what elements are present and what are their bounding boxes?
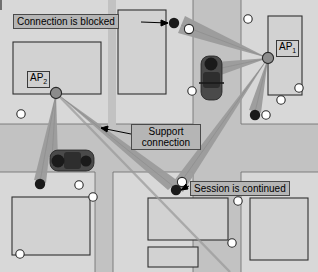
building-bottom-middle-small bbox=[148, 247, 198, 267]
tree bbox=[89, 193, 97, 201]
label-support-connection: Support connection bbox=[131, 124, 201, 150]
label-ap2-sub: 2 bbox=[43, 78, 47, 85]
ap2-south-user-node bbox=[35, 179, 45, 189]
ap1-south-user-node bbox=[250, 110, 260, 120]
handover-user-node bbox=[171, 185, 181, 195]
tree bbox=[16, 250, 24, 258]
tree bbox=[188, 87, 196, 95]
building-bottom-left bbox=[12, 197, 90, 255]
tree bbox=[17, 110, 25, 118]
tree bbox=[244, 15, 252, 23]
tree bbox=[295, 84, 303, 92]
figure-canvas: Connection is blocked Support connection… bbox=[0, 0, 318, 272]
blocked-user-node-ghost bbox=[184, 24, 193, 33]
label-support-connection-line2: connection bbox=[142, 137, 190, 148]
label-session-continued: Session is continued bbox=[190, 181, 290, 196]
tree bbox=[75, 181, 83, 189]
label-ap2-prefix: AP bbox=[30, 72, 43, 83]
label-ap1-prefix: AP bbox=[279, 41, 292, 52]
label-ap1-sub: 1 bbox=[292, 47, 296, 54]
label-connection-blocked: Connection is blocked bbox=[13, 14, 119, 29]
car-horizontal bbox=[50, 150, 94, 171]
tree bbox=[262, 111, 270, 119]
car-vertical bbox=[199, 56, 224, 100]
building-bottom-right bbox=[250, 198, 308, 260]
tree bbox=[277, 96, 285, 104]
ap1-node bbox=[262, 52, 273, 63]
tree bbox=[228, 239, 236, 247]
label-support-connection-line1: Support bbox=[148, 126, 183, 137]
ap2-node bbox=[50, 87, 61, 98]
building-bottom-middle bbox=[148, 198, 228, 240]
tree bbox=[234, 197, 242, 205]
blocked-user-node bbox=[169, 18, 179, 28]
label-ap1: AP1 bbox=[276, 40, 299, 57]
label-ap2: AP2 bbox=[27, 71, 50, 88]
